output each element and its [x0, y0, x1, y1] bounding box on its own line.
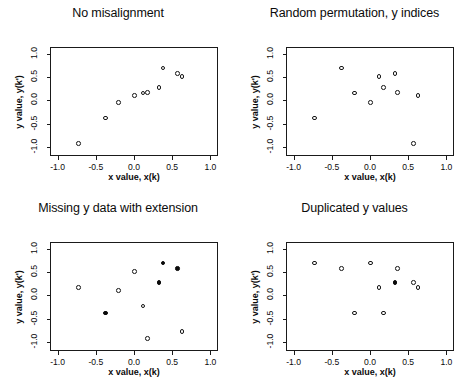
y-axis-tick-label: 0.5 — [265, 258, 275, 284]
figure-canvas: No misalignment-1.0-0.50.00.51.0-1.0-0.5… — [0, 0, 473, 390]
plot-frame — [50, 242, 218, 351]
x-axis-tick-label: 0.0 — [353, 162, 387, 172]
panel-title: No misalignment — [0, 6, 236, 20]
y-axis-tick-label: 0.5 — [265, 63, 275, 89]
y-axis-tick — [47, 272, 51, 273]
y-axis-tick-label: 1.0 — [29, 40, 39, 66]
y-axis-tick-label: -1.0 — [265, 328, 275, 354]
y-axis-label-text: y value, y(k') — [14, 75, 24, 129]
y-axis-tick-label: 0.0 — [265, 86, 275, 112]
y-axis-tick-label: 1.0 — [29, 235, 39, 261]
y-axis-tick — [47, 295, 51, 296]
x-axis-tick-label: -1.0 — [277, 162, 311, 172]
y-axis-tick — [283, 249, 287, 250]
x-axis-tick — [172, 156, 173, 160]
y-axis-label-text: y value, y(k') — [14, 270, 24, 324]
x-axis-tick-label: 0.0 — [117, 357, 151, 367]
x-axis-tick — [134, 351, 135, 355]
y-axis-tick-label: 0.0 — [29, 86, 39, 112]
y-axis-tick — [47, 124, 51, 125]
y-axis-tick — [47, 147, 51, 148]
x-axis-tick — [370, 156, 371, 160]
y-axis-tick — [283, 100, 287, 101]
x-axis-tick — [408, 156, 409, 160]
x-axis-tick — [134, 156, 135, 160]
chart-panel-3: Missing y data with extension-1.0-0.50.0… — [0, 195, 236, 390]
x-axis-tick — [332, 351, 333, 355]
x-axis-tick-label: 1.0 — [193, 357, 227, 367]
x-axis-tick-label: 0.0 — [353, 357, 387, 367]
x-axis-tick-label: 1.0 — [193, 162, 227, 172]
chart-panel-2: Random permutation, y indices-1.0-0.50.0… — [236, 0, 473, 195]
y-axis-tick — [47, 100, 51, 101]
x-axis-tick — [294, 156, 295, 160]
y-axis-tick — [47, 249, 51, 250]
x-axis-tick-label: -1.0 — [41, 162, 75, 172]
x-axis-tick — [446, 156, 447, 160]
y-axis-tick-label: -1.0 — [265, 133, 275, 159]
chart-panel-4: Duplicated y values-1.0-0.50.00.51.0-1.0… — [236, 195, 473, 390]
x-axis-tick-label: 0.0 — [117, 162, 151, 172]
x-axis-tick — [332, 156, 333, 160]
x-axis-tick-label: -0.5 — [79, 162, 113, 172]
x-axis-tick-label: -0.5 — [79, 357, 113, 367]
y-axis-tick-label: 0.0 — [265, 281, 275, 307]
chart-panel-1: No misalignment-1.0-0.50.00.51.0-1.0-0.5… — [0, 0, 236, 195]
x-axis-tick-label: 0.5 — [391, 357, 425, 367]
plot-frame — [286, 47, 454, 156]
y-axis-tick — [283, 342, 287, 343]
y-axis-label-text: y value, y(k') — [250, 75, 260, 129]
x-axis-tick — [58, 351, 59, 355]
plot-frame — [286, 242, 454, 351]
x-axis-tick-label: 0.5 — [391, 162, 425, 172]
panel-title: Random permutation, y indices — [236, 6, 473, 20]
panel-title: Duplicated y values — [236, 201, 473, 215]
y-axis-tick — [283, 54, 287, 55]
y-axis-tick-label: 0.5 — [29, 63, 39, 89]
y-axis-tick-label: -0.5 — [29, 305, 39, 331]
y-axis-tick — [47, 77, 51, 78]
y-axis-label: y value, y(k') — [249, 47, 261, 156]
x-axis-tick-label: 0.5 — [155, 162, 189, 172]
x-axis-tick — [96, 351, 97, 355]
plot-frame — [50, 47, 218, 156]
x-axis-tick-label: 1.0 — [429, 162, 463, 172]
x-axis-tick-label: -1.0 — [277, 357, 311, 367]
y-axis-tick — [283, 147, 287, 148]
y-axis-tick-label: -1.0 — [29, 328, 39, 354]
y-axis-tick — [283, 295, 287, 296]
x-axis-tick — [446, 351, 447, 355]
x-axis-label: x value, x(k) — [286, 367, 454, 377]
x-axis-label: x value, x(k) — [286, 172, 454, 182]
y-axis-tick-label: 1.0 — [265, 40, 275, 66]
x-axis-tick — [210, 156, 211, 160]
x-axis-tick — [370, 351, 371, 355]
y-axis-tick-label: -0.5 — [265, 305, 275, 331]
y-axis-tick — [47, 319, 51, 320]
x-axis-tick — [172, 351, 173, 355]
x-axis-label: x value, x(k) — [50, 367, 218, 377]
x-axis-tick-label: 1.0 — [429, 357, 463, 367]
y-axis-tick — [283, 124, 287, 125]
y-axis-label: y value, y(k') — [13, 47, 25, 156]
panel-title: Missing y data with extension — [0, 201, 236, 215]
x-axis-tick-label: -0.5 — [315, 357, 349, 367]
x-axis-tick — [58, 156, 59, 160]
x-axis-tick-label: 0.5 — [155, 357, 189, 367]
y-axis-tick — [47, 54, 51, 55]
x-axis-label: x value, x(k) — [50, 172, 218, 182]
y-axis-tick-label: 0.5 — [29, 258, 39, 284]
y-axis-label-text: y value, y(k') — [250, 270, 260, 324]
y-axis-tick — [283, 77, 287, 78]
x-axis-tick-label: -1.0 — [41, 357, 75, 367]
y-axis-tick-label: -1.0 — [29, 133, 39, 159]
y-axis-label: y value, y(k') — [13, 242, 25, 351]
x-axis-tick — [210, 351, 211, 355]
y-axis-tick — [283, 272, 287, 273]
x-axis-tick — [408, 351, 409, 355]
x-axis-tick-label: -0.5 — [315, 162, 349, 172]
y-axis-tick — [47, 342, 51, 343]
y-axis-tick-label: -0.5 — [265, 110, 275, 136]
x-axis-tick — [96, 156, 97, 160]
y-axis-tick-label: -0.5 — [29, 110, 39, 136]
